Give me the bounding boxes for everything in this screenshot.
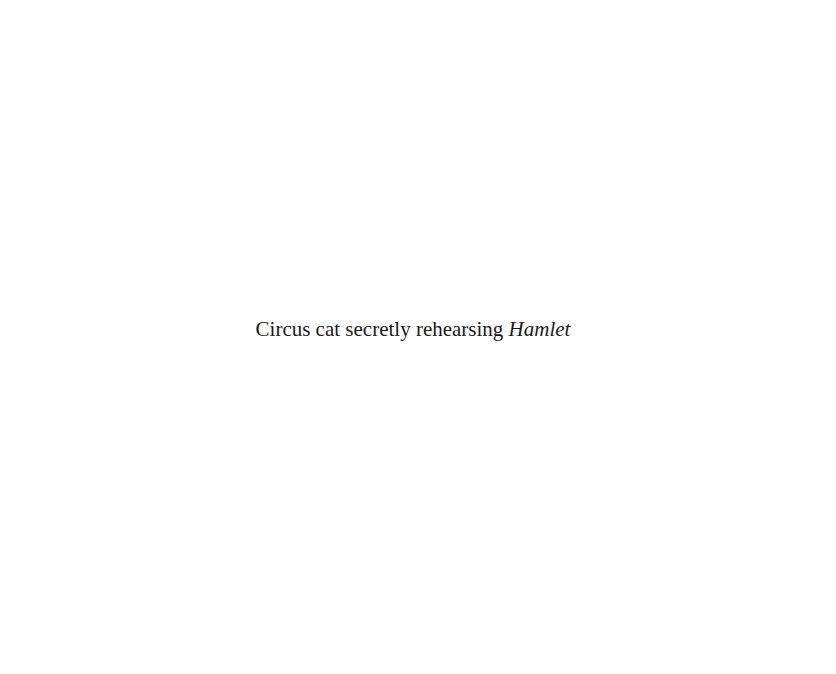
caption-text: Circus cat secretly rehearsing bbox=[256, 317, 504, 341]
page: Circus cat secretly rehearsing Hamlet bbox=[0, 0, 836, 674]
caption-italic-title: Hamlet bbox=[509, 317, 571, 341]
caption: Circus cat secretly rehearsing Hamlet bbox=[0, 316, 826, 342]
